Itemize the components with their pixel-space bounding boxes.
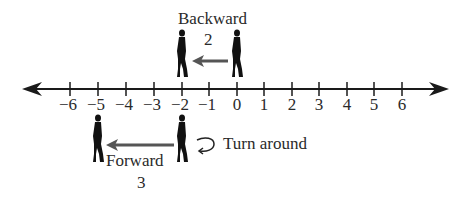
number-line bbox=[22, 82, 449, 96]
tick-label: −3 bbox=[143, 96, 161, 113]
forward-label: Forward bbox=[106, 152, 164, 169]
walker-final-icon bbox=[93, 115, 104, 163]
tick-label: −2 bbox=[171, 96, 189, 113]
tick-label: −6 bbox=[59, 96, 77, 113]
forward-amount: 3 bbox=[137, 174, 146, 191]
tick-label: −1 bbox=[198, 96, 216, 113]
tick-label: 1 bbox=[260, 96, 269, 113]
backward-amount: 2 bbox=[204, 31, 213, 48]
forward-arrow-icon bbox=[106, 139, 174, 151]
walker-start-icon bbox=[232, 30, 243, 78]
tick-label: 5 bbox=[370, 96, 379, 113]
backward-label: Backward bbox=[178, 10, 247, 27]
turn-around-icon bbox=[197, 138, 214, 154]
backward-arrow-icon bbox=[192, 55, 228, 67]
tick-label: 4 bbox=[343, 96, 352, 113]
tick-label: 6 bbox=[398, 96, 407, 113]
tick-label: 2 bbox=[288, 96, 297, 113]
tick-label: −5 bbox=[87, 96, 105, 113]
tick-label: 3 bbox=[315, 96, 324, 113]
tick-label: 0 bbox=[233, 96, 242, 113]
walker-end-icon bbox=[177, 30, 188, 78]
walker-turned-icon bbox=[177, 115, 188, 163]
number-line-diagram: Backward 2 Turn around Forward 3 −6 −5 −… bbox=[0, 0, 470, 198]
tick-label: −4 bbox=[115, 96, 133, 113]
turn-around-label: Turn around bbox=[223, 135, 307, 152]
